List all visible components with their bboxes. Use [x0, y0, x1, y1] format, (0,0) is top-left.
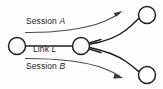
center-node[interactable] — [73, 38, 90, 55]
top-right-node[interactable] — [139, 7, 156, 24]
session-a-label: Session A — [26, 16, 65, 26]
session-b-arrowhead — [113, 74, 123, 79]
diagram-canvas: Session A Link L Session B — [0, 0, 163, 89]
session-b-label-text: Session — [26, 61, 59, 71]
left-node[interactable] — [9, 38, 26, 55]
session-b-label: Session B — [26, 61, 65, 71]
session-a-label-variable: A — [59, 16, 65, 26]
bottom-right-node[interactable] — [139, 67, 156, 84]
session-a-label-text: Session — [26, 16, 59, 26]
link-l-label-variable: L — [51, 44, 56, 54]
link-l-label: Link L — [33, 44, 56, 54]
session-b-label-variable: B — [59, 61, 65, 71]
link-l-label-text: Link — [33, 44, 51, 54]
diagram-svg — [0, 0, 163, 89]
